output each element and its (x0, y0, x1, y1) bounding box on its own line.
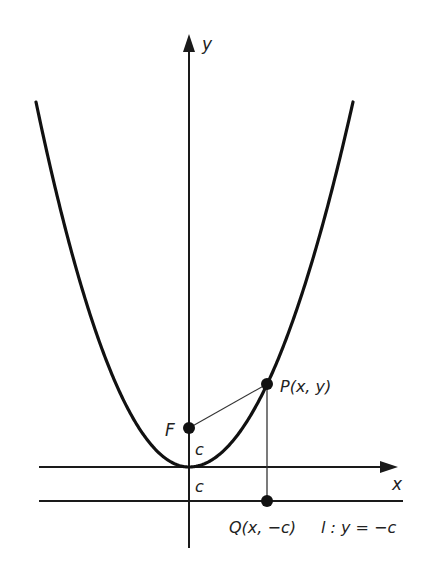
focus-point (183, 422, 195, 434)
focus-distance-label: c (195, 440, 204, 459)
focus-label: F (165, 420, 175, 440)
y-axis-label: y (201, 34, 213, 54)
directrix-distance-label: c (195, 477, 204, 496)
point-p-label: P(x, y) (280, 377, 331, 396)
point-p (261, 378, 273, 390)
y-axis-arrow-icon (183, 34, 195, 52)
parabola-curve (36, 102, 353, 467)
directrix-label: l : y = −c (321, 518, 396, 537)
parabola-diagram: y x F c c P(x, y) Q(x, −c) l : y = −c (0, 0, 427, 573)
point-q-label: Q(x, −c) (229, 518, 296, 537)
x-axis-arrow-icon (380, 461, 398, 473)
x-axis-label: x (391, 474, 403, 494)
point-q (261, 495, 273, 507)
